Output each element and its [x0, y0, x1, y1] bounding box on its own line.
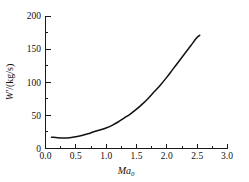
x-tick-label: 1.5 — [131, 151, 143, 161]
x-major-ticks — [46, 144, 228, 149]
y-tick-label: 0 — [36, 144, 41, 154]
data-series-line — [52, 35, 200, 138]
x-tick-label: 2.0 — [161, 151, 173, 161]
chart-figure: 0.0 0.5 1.0 1.5 2.0 2.5 3.0 0 50 100 150… — [0, 0, 249, 182]
x-axis-title-symbol: Ma — [117, 165, 131, 176]
x-tick-label: 2.5 — [191, 151, 203, 161]
y-axis-title: W'/(kg/s) — [4, 64, 16, 101]
x-tick-label: 3.0 — [221, 151, 233, 161]
x-tick-label: 0.5 — [70, 151, 82, 161]
y-axis-title-units: /(kg/s) — [4, 64, 16, 90]
y-tick-labels: 0 50 100 150 200 — [27, 11, 42, 154]
x-axis-title: Ma0 — [117, 165, 135, 177]
x-tick-label: 1.0 — [100, 151, 112, 161]
y-tick-label: 50 — [32, 111, 42, 121]
y-major-ticks — [46, 16, 51, 149]
y-tick-label: 150 — [27, 44, 42, 54]
chart-plot-area: 0.0 0.5 1.0 1.5 2.0 2.5 3.0 0 50 100 150… — [0, 0, 249, 182]
x-axis-title-subscript: 0 — [131, 170, 135, 177]
y-tick-label: 100 — [27, 78, 42, 88]
svg-text:Ma0: Ma0 — [117, 165, 135, 177]
svg-text:W'/(kg/s): W'/(kg/s) — [4, 64, 16, 101]
x-tick-labels: 0.0 0.5 1.0 1.5 2.0 2.5 3.0 — [40, 151, 234, 161]
x-tick-label: 0.0 — [40, 151, 52, 161]
y-tick-label: 200 — [27, 11, 42, 21]
